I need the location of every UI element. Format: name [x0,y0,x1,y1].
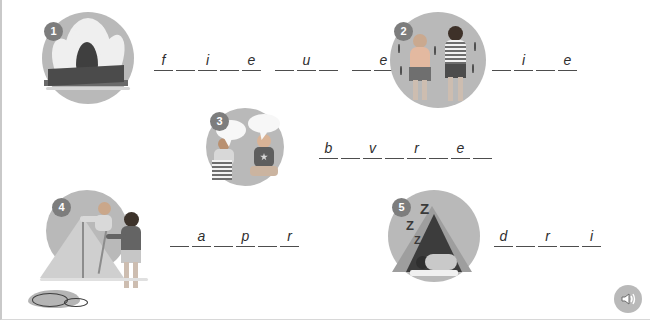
letter-slot[interactable]: u [297,50,316,71]
item-number-badge-3: 3 [210,112,229,131]
letter-slot-blank[interactable] [319,50,338,71]
zzz-letter: Z [414,234,421,246]
speech-bubble-right [248,114,280,133]
letter-slot[interactable]: e [558,50,577,71]
person-right-seated [252,134,282,180]
letter-slot-blank[interactable] [473,138,492,159]
item-number-badge-4: 4 [52,198,71,217]
head-shape [448,26,463,41]
legs-shape [250,166,278,176]
letter-slot-blank[interactable] [516,226,535,247]
person-right [442,26,472,104]
shivering-people-illustration: 2 [390,12,486,108]
letter-slot-blank[interactable] [492,50,511,71]
leg-shape [422,80,427,100]
person-left [406,34,436,102]
leg-shape [133,262,138,288]
zzz-letter: Z [420,200,429,217]
letter-slot-blank[interactable] [214,226,233,247]
campfire-illustration: 1 [42,12,134,104]
audio-play-button[interactable] [614,285,642,313]
letter-slot[interactable]: i [198,50,217,71]
letter-slot[interactable]: r [280,226,299,247]
answer-blanks-5[interactable]: d r i [494,226,604,247]
answer-blanks-1[interactable]: f i e u e [154,50,418,71]
speaker-icon [619,290,637,308]
letter-slot-blank[interactable] [220,50,239,71]
letter-slot-blank[interactable] [275,50,294,71]
sandal-strap-thin [64,298,88,307]
letter-slot[interactable]: e [242,50,261,71]
letter-slot[interactable]: b [319,138,338,159]
word-group-4-1[interactable]: a p r [170,226,302,247]
ground-line [40,278,148,281]
letter-slot[interactable]: r [538,226,557,247]
letter-slot[interactable]: r [407,138,426,159]
letter-slot[interactable]: a [192,226,211,247]
torso-shape [121,226,141,252]
speech-bubble-tail-left [224,138,232,147]
head-shape [124,212,139,227]
exercise-item-5: Z Z Z 5 [388,190,480,282]
letter-slot-blank[interactable] [429,138,448,159]
shiver-line [434,46,436,55]
talking-people-illustration: 3 [202,108,288,186]
exercise-item-4: 4 [40,190,148,290]
letter-slot-blank[interactable] [385,138,404,159]
item-number-badge-2: 2 [394,22,413,41]
shiver-line [472,64,474,73]
letter-slot-blank[interactable] [536,50,555,71]
leg-shape [413,80,418,100]
letter-slot-blank[interactable] [176,50,195,71]
person-standing-right [118,212,148,288]
skirt-shape [409,67,431,81]
letter-slot[interactable]: i [582,226,601,247]
letter-slot-blank[interactable] [170,226,189,247]
item-number-badge-5: 5 [392,198,411,217]
torso-shape [410,47,430,69]
leg-shape [458,77,463,101]
exercise-item-2: 2 [390,12,486,108]
leg-shape [448,77,453,101]
answer-blanks-4[interactable]: a p r [170,226,302,247]
shorts-shape [445,64,466,78]
head-shape [413,34,427,48]
letter-slot-blank[interactable] [341,138,360,159]
letter-slot-blank[interactable] [352,50,371,71]
letter-slot[interactable]: p [236,226,255,247]
ground-line [46,87,130,90]
blanket-shape [212,160,232,180]
tent-pole [82,216,84,278]
flame-spark-2 [98,26,105,38]
arm-shape [106,234,126,239]
shiver-line [400,66,402,75]
sleeping-bag-shape [425,254,457,270]
letter-slot[interactable]: d [494,226,513,247]
word-group-1-2[interactable]: u [275,50,341,71]
item-number-badge-1: 1 [44,22,63,41]
word-group-3-1[interactable]: b v r e [319,138,495,159]
letter-slot-blank[interactable] [560,226,579,247]
letter-slot[interactable]: e [451,138,470,159]
word-group-1-1[interactable]: f i e [154,50,264,71]
sandal-strap [32,293,68,307]
letter-slot[interactable]: f [154,50,173,71]
answer-blanks-3[interactable]: b v r e [319,138,495,159]
worksheet-page: 1 f i e u e [0,0,650,320]
letter-slot-blank[interactable] [258,226,277,247]
leg-shape [124,262,129,288]
head-shape [98,202,111,215]
shiver-line [398,44,400,53]
striped-shirt-shape [445,40,466,66]
letter-slot[interactable]: v [363,138,382,159]
pitching-tent-illustration: 4 [40,190,148,290]
flame-spark [72,30,80,44]
zzz-letter: Z [406,218,414,233]
word-group-5-1[interactable]: d r i [494,226,604,247]
sleeping-in-tent-illustration: Z Z Z 5 [388,190,480,282]
exercise-item-3: 3 [202,108,288,186]
answer-blanks-2[interactable]: i e [492,50,580,71]
word-group-2-1[interactable]: i e [492,50,580,71]
shiver-line [474,42,476,51]
letter-slot[interactable]: i [514,50,533,71]
